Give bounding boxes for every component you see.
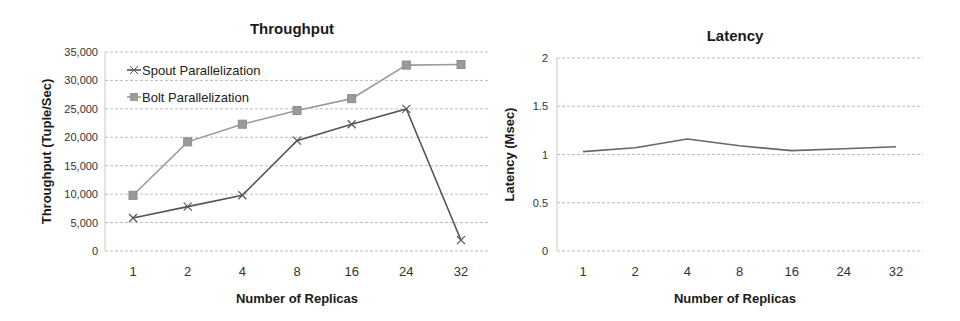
x-axis-title: Number of Replicas [236,291,358,306]
y-tick-label: 10,000 [64,188,98,200]
square-marker-icon [184,138,192,146]
square-marker-icon [129,191,137,199]
series-line [133,65,461,196]
y-tick-label: 0 [542,245,548,257]
x-tick-label: 8 [736,264,743,279]
legend-item: Bolt Parallelization [127,90,249,105]
y-tick-label: 1.5 [533,100,548,112]
x-axis-title: Number of Replicas [674,291,796,306]
x-tick-label: 8 [293,264,300,279]
x-tick-label: 4 [684,264,691,279]
square-marker-icon [293,107,301,115]
x-tick-label: 1 [579,264,586,279]
x-marker-icon [293,137,301,145]
chart-title: Latency [707,27,764,44]
x-tick-label: 1 [129,264,136,279]
legend-item: Spout Parallelization [127,63,261,78]
series-line [133,109,461,240]
series-latency [583,139,896,152]
charts-canvas: Throughput05,00010,00015,00020,00025,000… [0,0,960,321]
series-line [583,139,896,152]
square-marker-icon [457,61,465,69]
y-tick-label: 5,000 [70,217,98,229]
x-tick-label: 24 [837,264,851,279]
x-marker-icon [457,236,465,244]
chart-title: Throughput [250,20,334,37]
throughput-chart: Throughput05,00010,00015,00020,00025,000… [39,20,488,306]
y-tick-label: 0 [92,245,98,257]
x-tick-label: 2 [632,264,639,279]
x-tick-label: 24 [399,264,413,279]
x-tick-label: 2 [184,264,191,279]
y-tick-label: 25,000 [64,103,98,115]
y-tick-label: 0.5 [533,197,548,209]
series-spout-parallelization [129,105,465,244]
legend-label: Spout Parallelization [142,63,261,78]
y-tick-label: 35,000 [64,46,98,58]
y-axis-title: Latency (Msec) [502,108,517,202]
y-tick-label: 1 [542,149,548,161]
y-tick-label: 20,000 [64,131,98,143]
y-axis-title: Throughput (Tuple/Sec) [39,79,54,225]
latency-chart: Latency00.511.521248162432Number of Repl… [502,27,923,306]
legend-square-icon [130,93,138,101]
x-tick-label: 16 [784,264,798,279]
y-tick-label: 2 [542,52,548,64]
y-tick-label: 30,000 [64,74,98,86]
x-tick-label: 16 [344,264,358,279]
square-marker-icon [238,120,246,128]
legend-label: Bolt Parallelization [142,90,249,105]
x-tick-label: 4 [239,264,246,279]
x-tick-label: 32 [889,264,903,279]
x-tick-label: 32 [454,264,468,279]
y-tick-label: 15,000 [64,160,98,172]
square-marker-icon [402,61,410,69]
square-marker-icon [348,95,356,103]
